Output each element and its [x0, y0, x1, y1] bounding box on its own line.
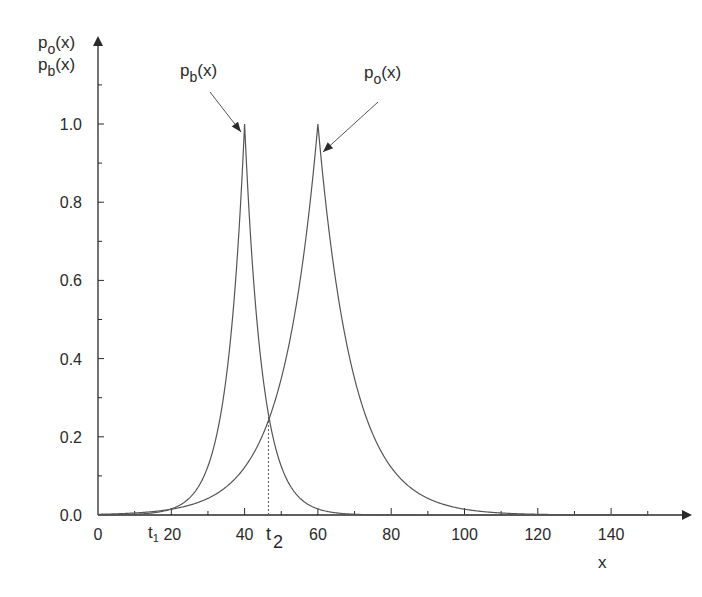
- y-tick-label: 0.0: [60, 507, 82, 524]
- y-axis-label-line1: po(x): [38, 33, 75, 57]
- y-tick-label: 0.8: [60, 194, 82, 211]
- curve-o: [98, 124, 648, 515]
- annotations: pb(x)po(x): [180, 61, 401, 515]
- t1-label: t1: [148, 523, 159, 544]
- chart: 0204060801001201400.00.20.40.60.81.0 pb(…: [0, 0, 702, 597]
- y-axis-arrow-icon: [93, 36, 103, 46]
- x-tick-label: 100: [451, 526, 478, 543]
- pb-arrow-arrowhead-icon: [232, 122, 241, 132]
- y-tick-label: 0.2: [60, 429, 82, 446]
- curve-b: [98, 124, 648, 515]
- x-axis-label: x: [598, 553, 607, 572]
- x-tick-label: 40: [236, 526, 254, 543]
- x-tick-label: 60: [309, 526, 327, 543]
- y-tick-label: 0.4: [60, 351, 82, 368]
- y-tick-label: 0.6: [60, 272, 82, 289]
- labels: po(x) pb(x) x t1 t2: [38, 33, 607, 572]
- x-tick-label: 80: [382, 526, 400, 543]
- x-tick-label: 20: [163, 526, 181, 543]
- x-tick-label: 120: [524, 526, 551, 543]
- pb-curve-label: pb(x): [180, 61, 217, 85]
- x-tick-label: 0: [94, 526, 103, 543]
- curves: [98, 124, 648, 515]
- x-axis-arrow-icon: [682, 510, 692, 520]
- po-arrow-line: [323, 102, 378, 152]
- x-tick-label: 140: [598, 526, 625, 543]
- y-tick-label: 1.0: [60, 116, 82, 133]
- y-axis-label-line2: pb(x): [38, 55, 75, 79]
- po-curve-label: po(x): [364, 63, 401, 87]
- axes: 0204060801001201400.00.20.40.60.81.0: [60, 36, 692, 543]
- t2-label: t2: [266, 524, 283, 552]
